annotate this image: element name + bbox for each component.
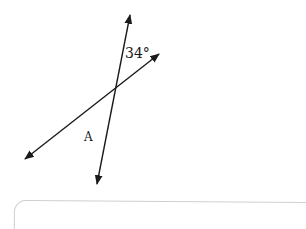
angle-label: 34° [125, 46, 150, 60]
intersecting-lines-diagram [0, 0, 306, 229]
angle-a-label: A [84, 131, 93, 143]
answer-input-box[interactable] [14, 200, 306, 229]
lines-figure [0, 0, 306, 229]
